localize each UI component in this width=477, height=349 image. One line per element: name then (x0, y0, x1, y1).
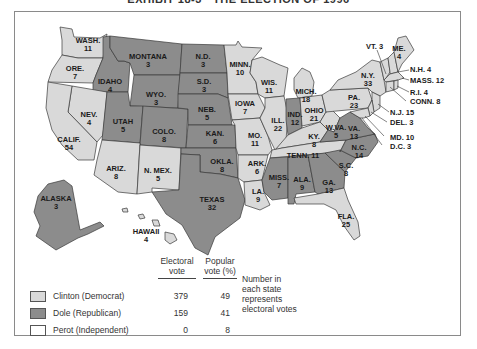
legend: Electoral vote Popular vote (%) Clinton … (30, 256, 330, 336)
votes-colo: 8 (162, 135, 166, 144)
votes-montana: 3 (146, 60, 150, 69)
state-hawaii-oahu[interactable] (138, 214, 145, 219)
leader-ri (397, 86, 409, 92)
legend-header-popular-line1: Popular (203, 256, 237, 266)
votes-nd: 3 (201, 60, 205, 69)
votes-kan: 6 (213, 137, 217, 146)
votes-ny: 33 (364, 79, 372, 88)
votes-ky: 8 (312, 140, 316, 149)
callout-nh: N.H. 4 (410, 65, 432, 74)
votes-mich: 18 (302, 95, 310, 104)
votes-iowa: 7 (243, 107, 247, 116)
callout-ri: R.I. 4 (410, 88, 429, 97)
legend-header-electoral: Electoral vote (158, 256, 196, 279)
votes-ala: 9 (300, 183, 304, 192)
legend-note: Number in each state represents electora… (242, 274, 332, 314)
votes-pa: 23 (350, 101, 358, 110)
votes-tenn: 11 (311, 151, 319, 160)
state-hawaii-kauai[interactable] (122, 208, 128, 212)
legend-note-line1: Number in (242, 274, 332, 284)
legend-name-clinton: Clinton (Democrat) (53, 291, 124, 301)
votes-utah: 5 (121, 125, 125, 134)
legend-header-electoral-line2: vote (158, 266, 196, 276)
leader-del (371, 112, 387, 122)
callout-vt: VT. 3 (366, 42, 383, 51)
votes-hawaii: 4 (144, 235, 149, 244)
votes-mo: 11 (251, 139, 259, 148)
votes-wis: 11 (265, 86, 273, 95)
votes-la: 9 (256, 195, 260, 204)
votes-wash: 11 (84, 44, 92, 53)
callout-dc: D.C. 3 (390, 142, 411, 151)
legend-popular-clinton: 49 (200, 291, 230, 301)
votes-ind: 12 (291, 118, 299, 127)
legend-popular-perot: 8 (200, 325, 230, 335)
votes-okla: 8 (220, 165, 224, 174)
votes-ga: 13 (325, 186, 333, 195)
legend-row-perot: Perot (Independent) 0 8 (30, 325, 330, 337)
callout-conn: CONN. 8 (410, 97, 440, 106)
legend-note-line3: represents (242, 294, 332, 304)
legend-header-electoral-line1: Electoral (158, 256, 196, 266)
votes-wva: 5 (334, 131, 338, 140)
legend-name-perot: Perot (Independent) (53, 325, 129, 335)
legend-electoral-dole: 159 (158, 308, 188, 318)
swatch-republican (30, 308, 46, 319)
votes-sd: 3 (202, 85, 206, 94)
votes-ark: 6 (255, 167, 259, 176)
votes-neb: 5 (205, 113, 209, 122)
leader-mass (402, 78, 409, 80)
legend-note-line2: each state (242, 284, 332, 294)
votes-wyo: 3 (154, 98, 158, 107)
legend-name-dole: Dole (Republican) (53, 308, 121, 318)
state-pa[interactable] (322, 88, 372, 112)
callout-mass: MASS. 12 (410, 76, 444, 85)
votes-minn: 10 (236, 68, 244, 77)
swatch-democrat (30, 291, 46, 302)
votes-fla: 25 (342, 220, 350, 229)
state-ri[interactable] (394, 80, 398, 90)
state-hawaii-maui[interactable] (152, 220, 160, 226)
legend-header-popular: Popular vote (%) (203, 256, 237, 279)
legend-electoral-clinton: 379 (158, 291, 188, 301)
swatch-independent (30, 325, 46, 336)
state-alaska[interactable] (34, 180, 104, 250)
votes-calif: 54 (65, 143, 74, 152)
label-tenn-abbr: TENN. (287, 151, 310, 160)
votes-ore: 7 (73, 72, 77, 81)
votes-miss: 7 (277, 181, 281, 190)
votes-ill: 22 (274, 124, 282, 133)
state-hawaii-island[interactable] (165, 232, 177, 244)
votes-alaska: 3 (54, 202, 58, 211)
legend-note-line4: electoral votes (242, 304, 332, 314)
votes-texas: 32 (208, 203, 216, 212)
label-tenn: TENN. 11 (287, 151, 320, 160)
votes-va: 13 (350, 132, 358, 141)
votes-ohio: 21 (310, 114, 318, 123)
state-conn[interactable] (386, 81, 394, 92)
legend-header-popular-line2: vote (%) (203, 266, 237, 276)
votes-sc: 8 (344, 169, 348, 178)
legend-electoral-perot: 0 (158, 325, 188, 335)
callout-del: DEL. 3 (390, 118, 413, 127)
callout-md: MD. 10 (390, 133, 414, 142)
leader-nh (398, 70, 409, 72)
votes-ariz: 8 (114, 172, 118, 181)
votes-nmex: 5 (156, 174, 160, 183)
callout-nj: N.J. 15 (390, 108, 414, 117)
legend-popular-dole: 41 (200, 308, 230, 318)
votes-nc: 14 (355, 151, 364, 160)
